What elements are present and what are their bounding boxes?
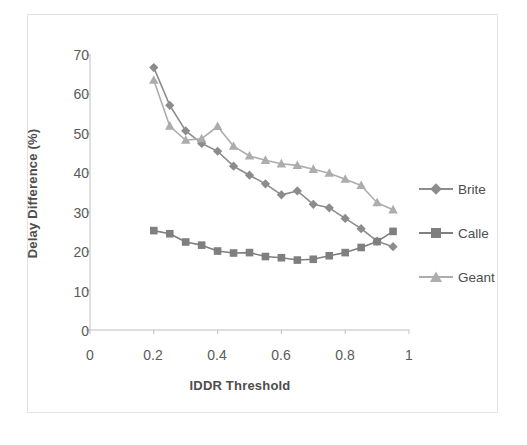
x-tick-label: 0.6 xyxy=(261,347,301,363)
series-brite xyxy=(149,63,397,251)
y-tick-label: 70 xyxy=(55,47,89,63)
series-calle xyxy=(150,227,397,264)
x-tick-label: 0.2 xyxy=(133,347,173,363)
legend-marker-diamond-icon xyxy=(418,181,454,197)
legend-label-geant: Geant xyxy=(458,270,495,285)
x-tick-label: 1 xyxy=(389,347,429,363)
data-point-diamond xyxy=(341,214,350,223)
data-point-square xyxy=(182,238,190,246)
data-point-square xyxy=(278,254,286,262)
legend-item-brite[interactable]: Brite xyxy=(418,181,486,197)
series-line xyxy=(154,231,393,260)
legend-item-geant[interactable]: Geant xyxy=(418,269,495,285)
y-tick-label: 0 xyxy=(55,323,89,339)
data-point-square xyxy=(310,255,318,263)
data-point-square xyxy=(230,249,238,257)
chart-container: 70 60 50 40 30 20 10 0 0 0.2 0.4 0.6 0.8… xyxy=(0,0,527,445)
data-point-diamond xyxy=(165,101,174,110)
data-point-diamond xyxy=(277,190,286,199)
data-point-diamond xyxy=(388,242,397,251)
x-tick-label: 0.8 xyxy=(325,347,365,363)
legend-item-calle[interactable]: Calle xyxy=(418,225,489,241)
x-axis-title: IDDR Threshold xyxy=(90,378,390,393)
data-point-triangle xyxy=(165,121,175,130)
data-point-square xyxy=(294,256,302,264)
data-point-square xyxy=(246,249,254,257)
data-point-square xyxy=(341,249,349,257)
series-line xyxy=(154,80,393,210)
series-geant xyxy=(149,75,398,213)
data-point-square xyxy=(325,252,333,260)
y-tick-label: 10 xyxy=(55,284,89,300)
data-point-triangle xyxy=(245,151,255,160)
legend-label-brite: Brite xyxy=(458,182,486,197)
data-point-square xyxy=(198,241,206,249)
y-tick-label: 60 xyxy=(55,86,89,102)
data-point-diamond xyxy=(261,179,270,188)
y-tick-label: 20 xyxy=(55,244,89,260)
data-point-square xyxy=(166,230,174,238)
data-point-square xyxy=(262,253,270,261)
data-point-diamond xyxy=(245,171,254,180)
data-point-square xyxy=(373,238,381,246)
data-point-diamond xyxy=(149,63,158,72)
x-tick-label: 0.4 xyxy=(197,347,237,363)
x-tick-label: 0 xyxy=(70,347,110,363)
series-line xyxy=(154,68,393,247)
data-point-square xyxy=(214,247,222,255)
y-tick-label: 40 xyxy=(55,165,89,181)
data-point-triangle xyxy=(213,122,223,131)
y-tick-label: 30 xyxy=(55,205,89,221)
data-point-triangle xyxy=(197,134,207,143)
y-axis-title: Delay Difference (%) xyxy=(25,99,40,289)
data-point-diamond xyxy=(325,203,334,212)
data-point-square xyxy=(150,227,158,235)
y-tick-label: 50 xyxy=(55,126,89,142)
legend-marker-square-icon xyxy=(418,225,454,241)
legend-label-calle: Calle xyxy=(458,226,489,241)
legend-marker-triangle-icon xyxy=(418,269,454,285)
data-point-square xyxy=(389,228,397,236)
data-point-square xyxy=(357,244,365,252)
